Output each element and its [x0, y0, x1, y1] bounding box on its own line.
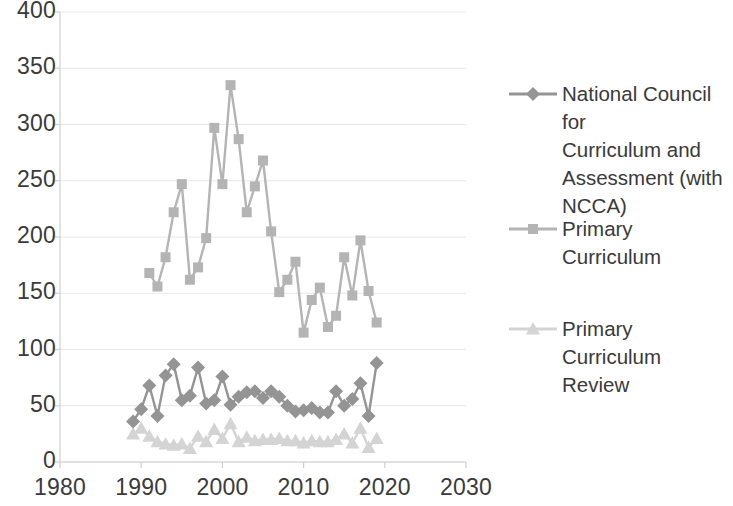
data-point-square [528, 224, 538, 234]
data-point-square [372, 318, 382, 328]
data-point-square [169, 207, 179, 217]
data-point-diamond [362, 409, 376, 423]
data-point-diamond [329, 384, 343, 398]
data-point-square [185, 275, 195, 285]
y-axis-tick-label: 100 [0, 335, 56, 362]
y-axis-tick-label: 350 [0, 53, 56, 80]
data-point-diamond [126, 415, 140, 429]
data-point-square [193, 262, 203, 272]
x-axis-tick-label: 2030 [421, 474, 511, 501]
data-point-square [217, 179, 227, 189]
series-line [149, 85, 376, 333]
legend-marker-diamond-icon [507, 81, 559, 107]
legend-item[interactable]: Primary Curriculum [507, 215, 733, 271]
data-point-diamond [526, 87, 540, 101]
data-point-square [282, 275, 292, 285]
legend-label: Primary Curriculum Review [562, 315, 733, 399]
legend-label: National Council for Curriculum and Asse… [562, 80, 733, 220]
data-point-diamond [134, 402, 148, 416]
data-point-triangle [191, 429, 205, 442]
legend-marker-square-icon [507, 216, 559, 242]
data-point-square [161, 252, 171, 262]
data-point-diamond [215, 370, 229, 384]
data-point-diamond [150, 409, 164, 423]
data-point-square [177, 179, 187, 189]
data-point-square [299, 328, 309, 338]
legend-item[interactable]: National Council for Curriculum and Asse… [507, 80, 733, 220]
y-axis-tick-label: 50 [0, 391, 56, 418]
data-point-square [152, 282, 162, 292]
data-point-diamond [370, 356, 384, 370]
y-axis-tick-label: 200 [0, 222, 56, 249]
data-point-square [258, 156, 268, 166]
x-axis-tick-label: 1980 [15, 474, 105, 501]
data-point-square [266, 226, 276, 236]
legend-item[interactable]: Primary Curriculum Review [507, 315, 733, 399]
data-point-triangle [370, 431, 384, 444]
data-point-triangle [337, 427, 351, 440]
data-point-square [323, 322, 333, 332]
data-point-square [234, 134, 244, 144]
chart-container: 400350300250200150100500 198019902000201… [0, 0, 733, 506]
data-point-square [144, 268, 154, 278]
data-point-square [331, 311, 341, 321]
data-point-square [250, 181, 260, 191]
data-point-diamond [142, 379, 156, 393]
series-0 [126, 356, 384, 429]
data-point-square [274, 287, 284, 297]
series-2 [126, 417, 384, 454]
data-point-square [201, 233, 211, 243]
data-point-square [315, 283, 325, 293]
data-point-diamond [191, 361, 205, 375]
y-axis-tick-label: 0 [0, 447, 56, 474]
legend-marker-triangle-icon [507, 316, 559, 342]
y-axis-tick-label: 400 [0, 0, 56, 24]
x-axis-tick-label: 2000 [177, 474, 267, 501]
data-point-square [226, 80, 236, 90]
data-point-diamond [353, 376, 367, 390]
legend-label: Primary Curriculum [562, 215, 733, 271]
data-point-diamond [321, 406, 335, 420]
data-point-triangle [224, 417, 238, 430]
data-point-triangle [353, 421, 367, 434]
series-1 [144, 80, 381, 338]
y-axis-tick-label: 300 [0, 110, 56, 137]
data-point-square [307, 295, 317, 305]
data-point-square [209, 123, 219, 133]
x-axis-tick-label: 2010 [259, 474, 349, 501]
y-axis-tick-label: 250 [0, 166, 56, 193]
y-axis-tick-label: 150 [0, 278, 56, 305]
data-point-square [290, 257, 300, 267]
data-point-square [347, 291, 357, 301]
data-point-square [339, 252, 349, 262]
data-point-square [355, 235, 365, 245]
x-axis-tick-label: 2020 [340, 474, 430, 501]
data-point-triangle [207, 422, 221, 435]
data-point-square [242, 207, 252, 217]
data-point-square [364, 286, 374, 296]
x-axis-tick-label: 1990 [96, 474, 186, 501]
